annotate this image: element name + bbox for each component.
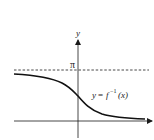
- pi-tick-label: π: [70, 59, 75, 70]
- curve-label-y: y: [91, 90, 96, 100]
- curve-label-equals: =: [98, 90, 103, 100]
- y-axis-label: y: [75, 28, 80, 38]
- curve-label-exponent: −1: [110, 88, 116, 94]
- inverse-cot-graph: y π y = f −1 (x): [0, 0, 154, 140]
- curve-label-argument: (x): [118, 90, 128, 100]
- curve-label: y = f −1 (x): [91, 88, 128, 100]
